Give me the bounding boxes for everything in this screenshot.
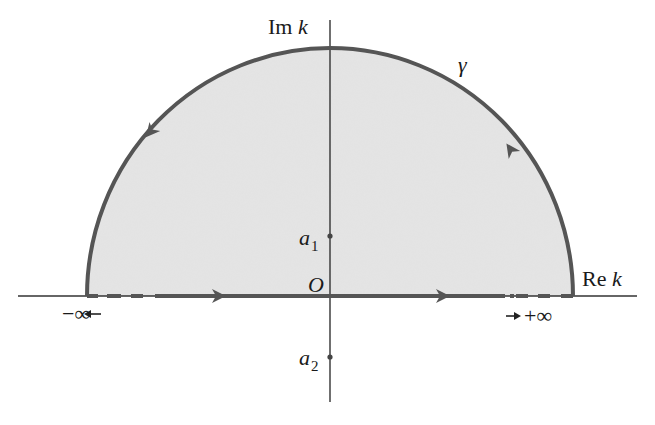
contour-label-gamma: γ — [458, 54, 467, 76]
positive-infinity-label: +∞ — [524, 305, 552, 327]
real-axis-prefix: Re — [582, 266, 606, 291]
contour-diagram — [0, 0, 655, 425]
imaginary-axis-prefix: Im — [268, 14, 292, 39]
point-a1-label: a1 — [299, 227, 319, 249]
point-a2-label: a2 — [299, 347, 319, 369]
point-a1-name: a — [299, 225, 310, 250]
right-arrow-icon — [506, 312, 521, 320]
imaginary-axis-var: k — [298, 14, 308, 39]
real-axis-var: k — [612, 266, 622, 291]
point-a1-marker — [327, 233, 332, 238]
point-a1-subscript: 1 — [311, 238, 319, 254]
origin-label: O — [308, 274, 324, 296]
negative-infinity-label: −∞ — [62, 303, 90, 325]
real-axis-label: Re k — [582, 268, 622, 290]
point-a2-subscript: 2 — [311, 358, 319, 374]
point-a2-marker — [327, 354, 332, 359]
imaginary-axis-label: Im k — [268, 16, 308, 38]
point-a2-name: a — [299, 345, 310, 370]
